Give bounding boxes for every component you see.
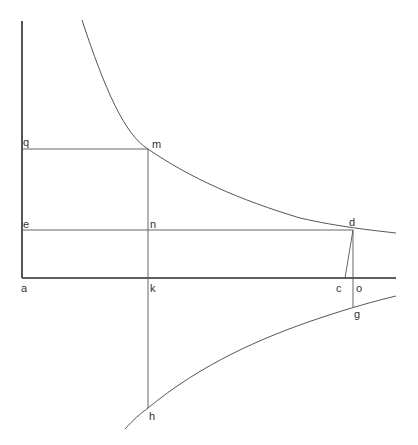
point-label-q: q bbox=[23, 136, 29, 148]
point-label-g: g bbox=[354, 308, 360, 320]
line-cd bbox=[345, 230, 353, 278]
point-label-k: k bbox=[150, 282, 156, 294]
point-label-n: n bbox=[150, 218, 156, 230]
point-label-a: a bbox=[21, 282, 28, 294]
point-label-m: m bbox=[152, 138, 161, 150]
diagram-canvas: qmendakcogh bbox=[0, 0, 418, 445]
point-label-d: d bbox=[349, 216, 355, 228]
point-label-o: o bbox=[356, 282, 362, 294]
point-labels: qmendakcogh bbox=[21, 136, 362, 422]
point-label-h: h bbox=[149, 410, 155, 422]
upper-hyperbola bbox=[82, 20, 396, 233]
point-label-c: c bbox=[336, 282, 342, 294]
point-label-e: e bbox=[23, 218, 29, 230]
